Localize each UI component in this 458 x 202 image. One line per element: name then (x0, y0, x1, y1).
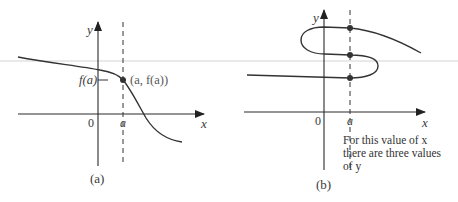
caption-a: (a) (90, 172, 104, 185)
intersection-point-middle (347, 52, 353, 58)
x-axis-label-b: x (422, 116, 428, 129)
note-line-1: For this value of x (343, 134, 441, 147)
x-tick-label-a: a (120, 117, 126, 129)
y-tick-label-fa: f(a) (79, 74, 97, 87)
intersection-point-top (347, 25, 353, 31)
relation-curve-b (247, 27, 421, 78)
note-line-3: of y (343, 160, 441, 173)
origin-label-a: 0 (88, 117, 94, 129)
intersection-point-bottom (347, 75, 353, 81)
point-label-a-fa: (a, f(a)) (130, 74, 168, 87)
caption-b: (b) (316, 178, 331, 191)
y-axis-label-b: y (313, 11, 319, 24)
x-axis-label-a: x (201, 117, 207, 130)
point-a-fa (120, 77, 126, 83)
y-axis-label-a: y (87, 23, 93, 36)
panel-a-graph (18, 22, 204, 166)
annotation-note: For this value of x there are three valu… (343, 134, 441, 173)
x-tick-label-b: a (347, 115, 353, 127)
origin-label-b: 0 (315, 115, 321, 127)
function-curve-a (18, 57, 182, 142)
note-line-2: there are three values (343, 147, 441, 160)
